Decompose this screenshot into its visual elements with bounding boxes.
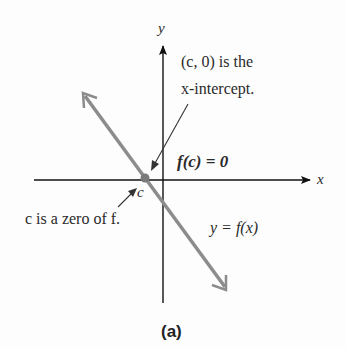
graph-svg: [0, 0, 346, 348]
zero-text: c is a zero of f.: [25, 210, 120, 228]
x-axis-label: x: [317, 171, 324, 188]
intercept-pointer-head: [151, 160, 159, 171]
fc-equation: f(c) = 0: [177, 152, 228, 172]
figure-caption: (a): [161, 322, 182, 342]
intercept-text-line1: (c, 0) is the: [181, 53, 253, 71]
curve-label: y = f(x): [210, 219, 258, 237]
c-pointer: [118, 193, 132, 207]
figure: y x (c, 0) is the x-intercept. f(c) = 0 …: [0, 0, 346, 348]
y-axis-label: y: [158, 20, 165, 37]
intercept-text-line2: x-intercept.: [181, 80, 254, 98]
function-line: [85, 96, 225, 287]
point-label: c: [137, 184, 144, 201]
intercept-point: [141, 174, 150, 183]
